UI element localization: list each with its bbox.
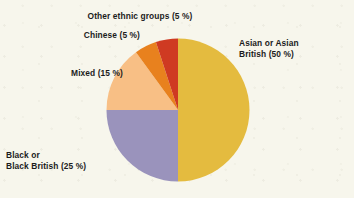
pie-label-black-or-black-british-line2: Black British (25 %): [6, 161, 141, 172]
pie-label-mixed: Mixed (15 %): [8, 68, 123, 79]
pie-label-chinese: Chinese (5 %): [18, 30, 140, 41]
pie-label-chinese-line1: Chinese (5 %): [18, 30, 140, 41]
pie-chart-figure: Other ethnic groups (5 %) Chinese (5 %) …: [0, 0, 354, 198]
pie-label-other-ethnic-groups: Other ethnic groups (5 %): [67, 11, 213, 22]
pie-label-mixed-line1: Mixed (15 %): [8, 68, 123, 79]
pie-label-asian-or-asian-british-line1: Asian or Asian: [239, 38, 351, 49]
pie-label-black-or-black-british-line1: Black or: [6, 150, 141, 161]
pie-label-black-or-black-british: Black or Black British (25 %): [6, 150, 141, 172]
pie-label-asian-or-asian-british-line2: British (50 %): [239, 49, 351, 60]
pie-label-other-ethnic-groups-line1: Other ethnic groups (5 %): [67, 11, 213, 22]
pie-label-asian-or-asian-british: Asian or Asian British (50 %): [239, 38, 351, 60]
